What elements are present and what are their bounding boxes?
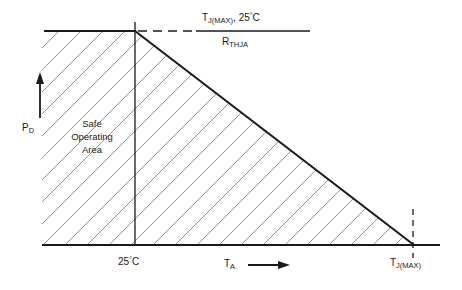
x-end-label-tjmax: TJ(MAX): [390, 257, 421, 271]
x-tick-label-25c: 25°C: [118, 256, 139, 268]
soa-label-line-1: Safe: [62, 118, 122, 131]
x-tick-value: 25: [118, 256, 129, 267]
y-axis-subscript: D: [29, 126, 34, 135]
tjmax-subscript: J(MAX): [396, 261, 421, 270]
x-axis-subscript: A: [230, 262, 235, 271]
x-axis-label: TA: [224, 258, 235, 272]
x-tick-unit: C: [132, 256, 139, 267]
soa-label-line-3: Area: [62, 144, 122, 157]
safe-operating-area-label: Safe Operating Area: [62, 118, 122, 156]
numerator-unit: C: [253, 12, 260, 23]
denominator-subscript: THJA: [229, 40, 248, 49]
formula-numerator: TJ(MAX), 25°C: [202, 12, 260, 26]
numerator-subscript: J(MAX): [208, 16, 233, 25]
y-axis-symbol: P: [22, 122, 29, 133]
y-axis-label: PD: [22, 122, 34, 136]
soa-label-line-2: Operating: [62, 131, 122, 144]
formula-denominator: RTHJA: [222, 36, 248, 50]
right-arrow-icon: [248, 261, 290, 269]
numerator-rest: , 25: [233, 12, 250, 23]
